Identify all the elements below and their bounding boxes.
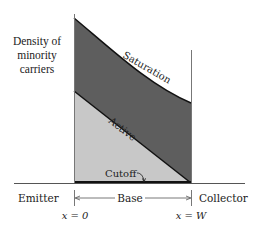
base-label: Base — [117, 192, 143, 204]
collector-label: Collector — [199, 192, 249, 204]
cutoff-label: Cutoff — [105, 168, 137, 179]
x-w-label: x = W — [176, 210, 207, 221]
emitter-label: Emitter — [18, 192, 60, 204]
x-zero-label: x = 0 — [62, 210, 89, 221]
minority-carrier-diagram: Saturation Active Cutoff Emitter Base Co… — [0, 0, 256, 235]
